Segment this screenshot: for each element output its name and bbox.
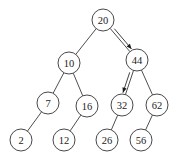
tree-node-62: 62	[146, 94, 168, 116]
edge-10-16	[73, 73, 83, 96]
edge-16-12	[70, 115, 81, 131]
tree-node-20: 20	[92, 9, 114, 31]
node-label: 32	[117, 100, 128, 111]
node-label: 44	[132, 55, 143, 66]
nodes-layer: 20104471632622122656	[10, 9, 168, 151]
tree-node-10: 10	[58, 52, 80, 74]
node-label: 10	[64, 58, 75, 69]
node-label: 12	[59, 135, 70, 146]
tree-node-26: 26	[96, 129, 118, 151]
edge-44-62	[141, 70, 152, 95]
edge-10-7	[53, 73, 64, 94]
tree-node-56: 56	[130, 129, 152, 151]
tree-node-32: 32	[111, 94, 133, 116]
binary-tree-diagram: 20104471632622122656	[0, 0, 176, 165]
tree-node-16: 16	[76, 95, 98, 117]
edge-20-44	[110, 28, 130, 51]
tree-node-44: 44	[126, 49, 148, 71]
node-label: 7	[45, 98, 50, 109]
edge-32-26	[111, 115, 117, 130]
node-label: 56	[136, 135, 147, 146]
node-label: 2	[18, 135, 23, 146]
edge-7-2	[27, 112, 41, 131]
node-label: 16	[82, 101, 93, 112]
node-label: 26	[102, 135, 113, 146]
tree-node-7: 7	[37, 92, 59, 114]
tree-node-12: 12	[53, 129, 75, 151]
node-label: 20	[98, 15, 109, 26]
node-label: 62	[152, 100, 163, 111]
edge-62-56	[146, 115, 153, 130]
edge-20-10	[76, 29, 96, 55]
tree-node-2: 2	[10, 129, 32, 151]
